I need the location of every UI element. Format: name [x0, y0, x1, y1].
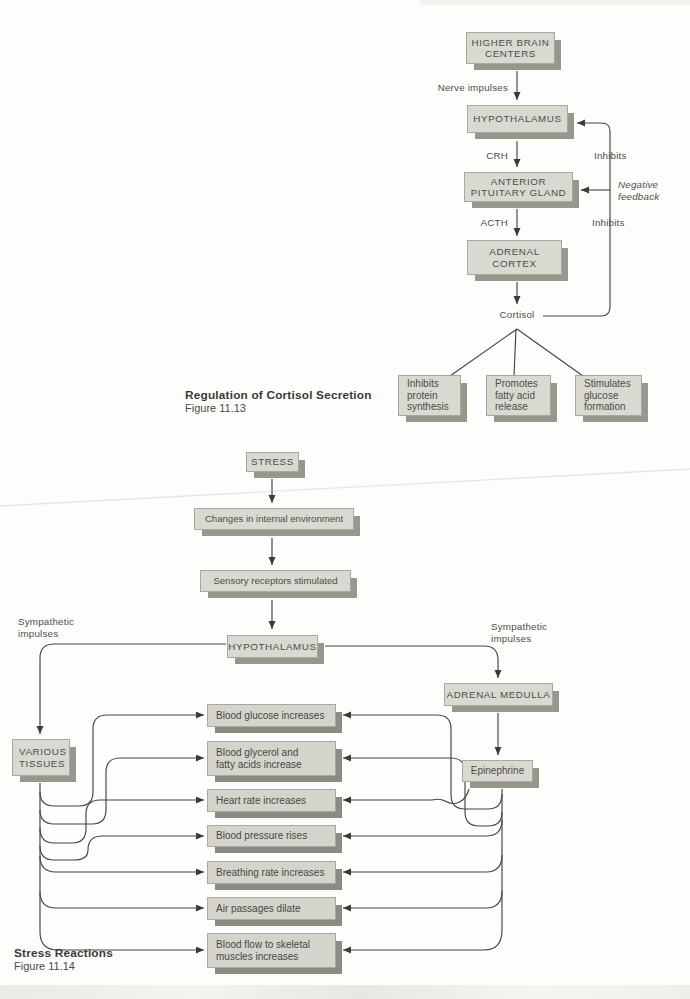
label-nerve-impulses: Nerve impulses	[430, 82, 508, 94]
label-cortisol: Cortisol	[489, 309, 545, 321]
node-promotes-fatty-acid-release: Promotes fatty acid release	[486, 375, 551, 416]
right-branch-heart-rate	[343, 789, 469, 803]
figure-14-number: Figure 11.14	[14, 960, 75, 972]
effect-blood-glucose-increases: Blood glucose increases	[207, 704, 336, 727]
left-branch-breathing-rate	[40, 856, 204, 872]
label-sympathetic-impulses-right: Sympathetic impulses	[491, 621, 547, 644]
node-hypothalamus-fig14: HYPOTHALAMUS	[227, 635, 318, 658]
cortisol-fan-left	[450, 329, 517, 376]
effect-breathing-rate-increases: Breathing rate increases	[207, 861, 336, 884]
sympathetic-line-to-adrenal-medulla	[325, 646, 498, 678]
figure-13-number: Figure 11.13	[185, 402, 246, 414]
cortisol-fan-right	[517, 329, 583, 376]
scan-artifact-line	[0, 469, 690, 506]
scan-bottom-band	[0, 985, 690, 999]
figure-14-title: Stress Reactions	[14, 946, 113, 960]
node-hypothalamus-fig13: HYPOTHALAMUS	[467, 105, 568, 133]
left-branch-blood-pressure	[40, 836, 204, 860]
label-acth: ACTH	[466, 217, 508, 229]
label-negative-feedback: Negative feedback	[618, 179, 659, 202]
node-anterior-pituitary-gland: ANTERIOR PITUITARY GLAND	[464, 172, 573, 202]
effect-blood-glycerol-fatty-acids: Blood glycerol and fatty acids increase	[207, 741, 336, 776]
label-crh: CRH	[470, 150, 508, 162]
sympathetic-line-to-various-tissues	[40, 644, 226, 734]
node-epinephrine: Epinephrine	[462, 760, 533, 782]
effect-blood-pressure-rises: Blood pressure rises	[207, 825, 336, 847]
effect-air-passages-dilate: Air passages dilate	[207, 897, 336, 920]
left-branch-air-passages	[40, 892, 204, 908]
label-inhibits-upper: Inhibits	[594, 150, 627, 162]
label-inhibits-lower: Inhibits	[592, 217, 625, 229]
cortisol-fan-middle	[514, 329, 516, 376]
scanned-textbook-page: HIGHER BRAIN CENTERS HYPOTHALAMUS ANTERI…	[0, 0, 690, 999]
node-stress: STRESS	[246, 452, 299, 472]
node-higher-brain-centers: HIGHER BRAIN CENTERS	[466, 32, 555, 64]
right-branch-blood-flow	[343, 930, 502, 950]
node-various-tissues: VARIOUS TISSUES	[12, 739, 70, 776]
right-branch-breathing-rate	[343, 855, 502, 872]
effect-blood-flow-skeletal-muscles: Blood flow to skeletal muscles increases	[207, 933, 336, 968]
node-inhibits-protein-synthesis: Inhibits protein synthesis	[398, 375, 461, 416]
figure-13-title: Regulation of Cortisol Secretion	[185, 388, 372, 402]
right-branch-air-passages	[343, 891, 502, 908]
node-sensory-receptors-stimulated: Sensory receptors stimulated	[200, 570, 351, 592]
connector-diagram	[0, 0, 690, 999]
label-sympathetic-impulses-left: Sympathetic impulses	[18, 616, 74, 639]
effect-heart-rate-increases: Heart rate increases	[207, 789, 336, 812]
node-adrenal-medulla: ADRENAL MEDULLA	[444, 683, 553, 706]
node-stimulates-glucose-formation: Stimulates glucose formation	[575, 375, 642, 416]
node-adrenal-cortex: ADRENAL CORTEX	[467, 240, 562, 275]
right-branch-blood-pressure	[343, 820, 502, 836]
node-changes-internal-environment: Changes in internal environment	[194, 508, 354, 530]
